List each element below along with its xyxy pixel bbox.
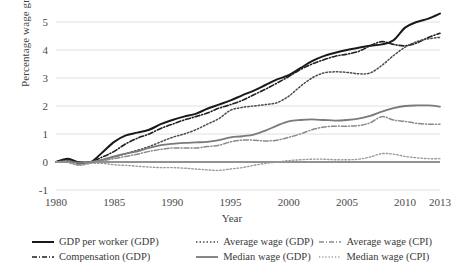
x-tick-label: 1990 xyxy=(161,196,184,208)
y-axis-ticks: -1012345 xyxy=(39,16,49,196)
y-tick-label: 4 xyxy=(43,44,49,56)
legend-table: GDP per worker (GDP) Average wage (GDP) xyxy=(32,234,432,264)
x-tick-label: 1980 xyxy=(45,196,68,208)
legend-key-dotted-icon xyxy=(196,237,218,247)
legend-label: Average wage (CPI) xyxy=(346,235,432,248)
legend-item-compensation-gdp: Compensation (GDP) xyxy=(32,249,196,264)
x-axis-ticks: 19801985199019952000200520102013 xyxy=(45,196,452,208)
y-tick-label: 5 xyxy=(43,16,49,28)
y-tick-label: 0 xyxy=(43,156,49,168)
legend-key-dashdot-grey-icon xyxy=(319,237,341,247)
x-tick-label: 2010 xyxy=(394,196,417,208)
legend-label: Compensation (GDP) xyxy=(59,250,150,263)
legend-key-dashdot-dark-icon xyxy=(32,252,54,262)
series-line xyxy=(56,117,440,165)
legend-label: Average wage (GDP) xyxy=(223,235,313,248)
legend-item-average-wage-cpi: Average wage (CPI) xyxy=(319,234,432,249)
plot-area: -1012345 1980198519901995200020052010201… xyxy=(0,0,464,232)
x-tick-label: 2000 xyxy=(278,196,301,208)
y-tick-label: -1 xyxy=(39,184,48,196)
legend-item-gdp-per-worker-gdp: GDP per worker (GDP) xyxy=(32,234,196,249)
legend-key-dotted-light-icon xyxy=(319,252,341,262)
y-tick-label: 2 xyxy=(43,100,49,112)
legend-label: Median wage (CPI) xyxy=(346,250,429,263)
legend-item-median-wage-gdp: Median wage (GDP) xyxy=(196,249,319,264)
legend-row: Compensation (GDP) Median wage (GDP) xyxy=(32,249,432,264)
x-tick-label: 2013 xyxy=(429,196,452,208)
x-tick-label: 1995 xyxy=(220,196,243,208)
series-line xyxy=(56,33,440,163)
legend-item-median-wage-cpi: Median wage (CPI) xyxy=(319,249,432,264)
y-tick-label: 1 xyxy=(43,128,49,140)
series-line xyxy=(56,37,440,163)
y-tick-label: 3 xyxy=(43,72,49,84)
legend-key-solid-dark-icon xyxy=(32,237,54,247)
legend-label: Median wage (GDP) xyxy=(223,250,310,263)
chart-container: Percentage wage growth (%) -1012345 1980… xyxy=(0,0,464,277)
x-tick-label: 1985 xyxy=(103,196,126,208)
legend-row: GDP per worker (GDP) Average wage (GDP) xyxy=(32,234,432,249)
x-axis-title: Year xyxy=(0,212,464,224)
chart-legend: GDP per worker (GDP) Average wage (GDP) xyxy=(0,234,464,277)
legend-item-average-wage-gdp: Average wage (GDP) xyxy=(196,234,319,249)
series-lines xyxy=(56,14,440,171)
legend-label: GDP per worker (GDP) xyxy=(59,235,159,248)
legend-key-solid-grey-icon xyxy=(196,252,218,262)
x-tick-label: 2005 xyxy=(336,196,359,208)
